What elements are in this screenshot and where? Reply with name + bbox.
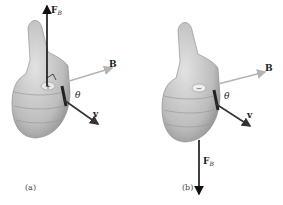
field-arrow [218, 72, 265, 84]
charge-negative-icon: − [196, 85, 202, 93]
velocity-label-a: v [93, 110, 98, 119]
charge-positive-icon: + [45, 83, 51, 91]
force-label-b: FB [203, 157, 214, 167]
field-label-b: B [265, 64, 273, 73]
hand-a [12, 21, 70, 139]
velocity-label-b: v [247, 111, 252, 120]
field-arrow [66, 68, 112, 82]
angle-label-b: θ [224, 92, 229, 101]
caption-a: (a) [25, 184, 36, 192]
caption-b: (b) [182, 184, 193, 192]
hand-b [162, 23, 220, 143]
panel-b: − [162, 23, 265, 195]
right-hand-rule-diagram: + − [0, 0, 283, 205]
angle-label-a: θ [75, 91, 80, 100]
velocity-arrow [216, 104, 250, 126]
field-label-a: B [109, 60, 117, 69]
force-label-a: FB [51, 6, 62, 16]
